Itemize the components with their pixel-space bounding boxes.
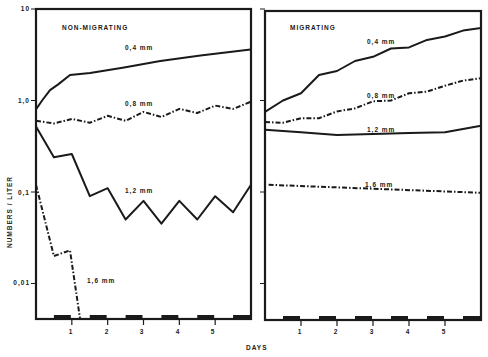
series-label-right-1-2mm: 1,2 mm — [367, 126, 395, 134]
x-axis-label: DAYS — [246, 344, 267, 351]
night-bar — [391, 316, 408, 320]
x-tick-label: 4 — [176, 328, 181, 335]
x-tick-label: 3 — [370, 328, 375, 335]
series-label-right-0-4mm: 0,4 mm — [367, 38, 395, 46]
panel-title-non-migrating: NON-MIGRATING — [62, 24, 128, 31]
night-bar — [355, 316, 372, 320]
night-bar — [161, 315, 178, 319]
x-tick-label: 2 — [105, 328, 110, 335]
chart-figure: NUMBERS / LITER 10 1,0 0,1 0,01 NON-MIGR… — [0, 0, 488, 357]
night-bar — [427, 316, 444, 320]
series-label-right-1-6mm: 1,6 mm — [365, 181, 393, 189]
y-tick-label: 0,01 — [13, 279, 30, 287]
series-label-right-0-8mm: 0,8 mm — [367, 92, 395, 100]
night-bar — [197, 315, 214, 319]
y-axis-label: NUMBERS / LITER — [6, 176, 13, 248]
night-bar — [126, 315, 143, 319]
night-bar — [233, 315, 250, 319]
series-label-left-1-6mm: 1,6 mm — [87, 277, 115, 285]
x-tick-label: 1 — [69, 328, 74, 335]
night-bar — [463, 316, 480, 320]
night-bar — [319, 316, 336, 320]
night-bar — [54, 315, 71, 319]
x-tick-label: 2 — [334, 328, 339, 335]
y-tick-label: 0,1 — [18, 189, 30, 197]
panel-title-migrating: MIGRATING — [290, 24, 336, 31]
series-label-left-0-8mm: 0,8 mm — [125, 100, 153, 108]
panel-non-migrating — [31, 9, 251, 325]
x-tick-label: 5 — [211, 328, 216, 335]
x-tick-label: 1 — [298, 328, 303, 335]
series-label-left-0-4mm: 0,4 mm — [125, 44, 153, 52]
x-tick-label: 3 — [140, 328, 145, 335]
series-line-non-migrating-1-6-mm — [36, 185, 80, 319]
y-tick-label: 1,0 — [18, 97, 30, 105]
panel-migrating — [260, 9, 481, 326]
night-bar — [90, 315, 107, 319]
night-bar — [283, 316, 300, 320]
y-tick-label: 10 — [21, 5, 30, 12]
plot-frame — [36, 9, 251, 319]
series-label-left-1-2mm: 1,2 mm — [125, 187, 153, 195]
series-line-non-migrating-1-2-mm — [36, 127, 251, 224]
series-line-migrating-0-8-mm — [265, 78, 481, 123]
x-tick-label: 4 — [406, 328, 411, 335]
x-tick-label: 5 — [442, 328, 447, 335]
